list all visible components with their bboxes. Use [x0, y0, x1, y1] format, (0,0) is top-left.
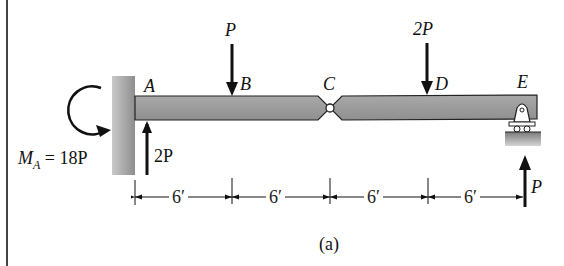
dimension-bc: 6′ [266, 188, 285, 206]
fixed-wall-support [112, 76, 135, 175]
point-label-b: B [240, 75, 251, 93]
dimension-ab: 6′ [169, 188, 188, 206]
point-label-c: C [323, 75, 335, 93]
dimension-cd: 6′ [364, 188, 383, 206]
ground-hatch [505, 132, 541, 146]
hinge-c-icon [326, 104, 334, 112]
load-label-b: P [225, 21, 236, 39]
reaction-label-a: 2P [154, 147, 173, 165]
beam-segment-ce [330, 95, 537, 120]
point-label-d: D [435, 75, 448, 93]
beam-diagram [0, 0, 564, 266]
reaction-label-e: P [531, 178, 542, 196]
load-label-d: 2P [413, 20, 433, 38]
beam-segment-ac [135, 96, 330, 120]
moment-label-ma: MA = 18P [18, 149, 88, 171]
dimension-de: 6′ [461, 188, 480, 206]
figure-caption: (a) [319, 235, 339, 253]
point-label-a: A [144, 77, 155, 95]
point-label-e: E [517, 73, 528, 91]
